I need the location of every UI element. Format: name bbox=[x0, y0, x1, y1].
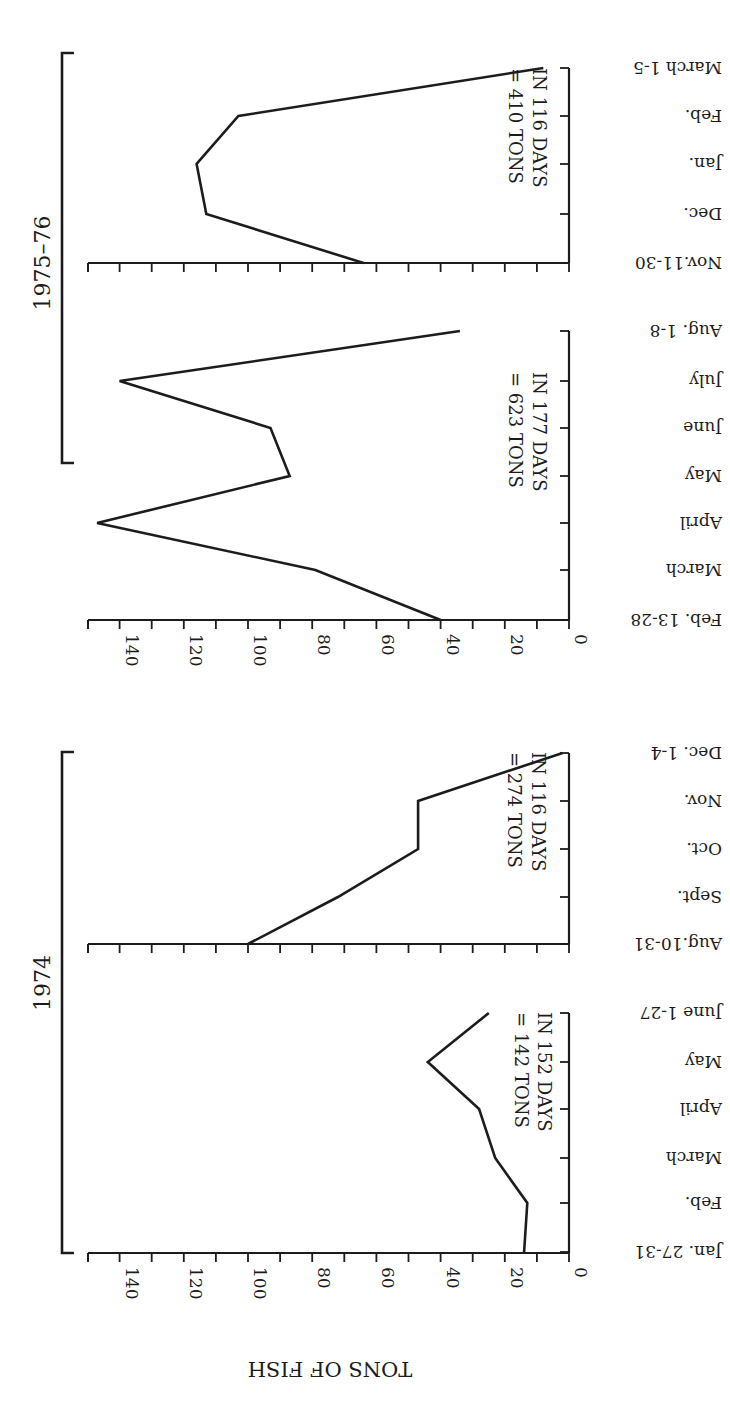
value-tick-label: 20 bbox=[507, 1267, 527, 1289]
category-label: March bbox=[666, 1148, 722, 1168]
category-label: May bbox=[684, 1052, 722, 1072]
category-label: July bbox=[689, 371, 724, 391]
category-label: Dec. 1-4 bbox=[651, 743, 722, 763]
category-label: Sept. bbox=[677, 887, 722, 907]
category-label: April bbox=[680, 1099, 723, 1119]
fish-catch-chart: 19741975–76 020406080100120140Jan. 27-31… bbox=[0, 0, 730, 1402]
total-annotation: IN 152 DAYS bbox=[534, 1012, 555, 1132]
data-line bbox=[97, 331, 460, 620]
total-annotation: = 142 TONS bbox=[511, 1012, 532, 1128]
category-label: Dec. bbox=[683, 204, 722, 224]
panel-3: 020406080100120140Feb. 13-28MarchAprilMa… bbox=[88, 321, 724, 666]
category-label: June bbox=[683, 418, 724, 438]
value-tick-label: 40 bbox=[443, 634, 463, 656]
category-label: March bbox=[666, 560, 722, 580]
category-label: Aug.10-31 bbox=[633, 934, 723, 954]
value-tick-label: 60 bbox=[378, 634, 398, 656]
value-tick-label: 20 bbox=[507, 634, 527, 656]
chart-panels: 020406080100120140Jan. 27-31Feb.MarchApr… bbox=[88, 58, 724, 1299]
category-label: Oct. bbox=[686, 839, 722, 859]
value-tick-label: 140 bbox=[122, 1267, 142, 1299]
total-annotation: IN 116 DAYS bbox=[529, 68, 550, 188]
category-label: Feb. bbox=[685, 106, 722, 126]
panel-2: Aug.10-31Sept.Oct.Nov.Dec. 1-4= 274 TONS… bbox=[88, 743, 723, 954]
value-tick-label: 80 bbox=[314, 634, 334, 656]
total-annotation: = 410 TONS bbox=[505, 68, 526, 184]
value-tick-label: 120 bbox=[186, 1267, 206, 1299]
total-annotation: = 274 TONS bbox=[504, 752, 525, 868]
value-tick-label: 40 bbox=[443, 1267, 463, 1289]
year-label: 1975–76 bbox=[30, 216, 55, 311]
category-label: June 1-27 bbox=[640, 1003, 724, 1023]
value-tick-label: 140 bbox=[122, 634, 142, 666]
category-label: May bbox=[684, 466, 722, 486]
category-label: Feb. bbox=[685, 1193, 722, 1213]
category-label: Jan. bbox=[689, 154, 724, 174]
category-label: Jan. 27-31 bbox=[634, 1242, 724, 1262]
total-annotation: IN 177 DAYS bbox=[529, 372, 550, 492]
year-label: 1974 bbox=[30, 955, 55, 1011]
category-label: Feb. 13-28 bbox=[630, 610, 722, 630]
total-annotation: = 623 TONS bbox=[505, 372, 526, 488]
panel-4: Nov.11-30Dec.Jan.Feb.March 1-5= 410 TONS… bbox=[88, 58, 724, 273]
value-tick-label: 80 bbox=[314, 1267, 334, 1289]
category-label: Nov.11-30 bbox=[635, 253, 722, 273]
total-annotation: IN 116 DAYS bbox=[528, 752, 549, 872]
panel-1: 020406080100120140Jan. 27-31Feb.MarchApr… bbox=[88, 1003, 724, 1299]
year-bracket: 1975–76 bbox=[30, 53, 74, 463]
value-tick-label: 60 bbox=[378, 1267, 398, 1289]
category-label: April bbox=[680, 513, 723, 533]
y-axis-title: TONS OF FISH bbox=[248, 1357, 413, 1381]
category-label: March 1-5 bbox=[633, 58, 722, 78]
value-tick-label: 120 bbox=[186, 634, 206, 666]
value-tick-label: 100 bbox=[250, 1267, 270, 1299]
year-brackets: 19741975–76 bbox=[30, 53, 74, 1253]
value-tick-label: 0 bbox=[571, 1267, 591, 1278]
value-tick-label: 0 bbox=[571, 634, 591, 645]
year-bracket: 1974 bbox=[30, 752, 74, 1253]
data-line bbox=[197, 68, 544, 263]
value-tick-label: 100 bbox=[250, 634, 270, 666]
category-label: Nov. bbox=[684, 791, 722, 811]
category-label: Aug. 1-8 bbox=[650, 321, 723, 341]
